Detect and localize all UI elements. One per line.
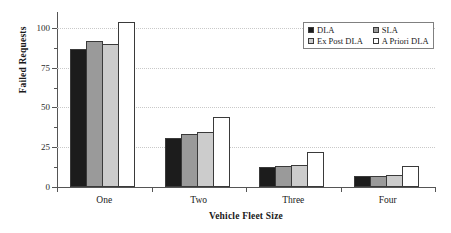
bar [402, 166, 419, 187]
bar [275, 166, 292, 187]
x-tick-label: Four [379, 195, 397, 205]
legend-label: Ex Post DLA [317, 37, 363, 46]
bar [386, 175, 403, 187]
y-axis-title: Failed Requests [18, 0, 28, 130]
y-tick [52, 147, 57, 148]
bar [102, 44, 119, 187]
x-tick-label: One [96, 195, 112, 205]
y-tick-minor [54, 88, 57, 89]
y-tick-label: 75 [41, 63, 50, 73]
x-tick-label: Two [190, 195, 207, 205]
legend-item-sla: SLA [373, 26, 429, 35]
legend-item-a-priori-dla: A Priori DLA [373, 37, 429, 46]
bar [370, 176, 387, 187]
y-tick-label: 50 [41, 102, 50, 112]
bar [291, 165, 308, 187]
chart-legend: DLA SLA Ex Post DLA A Priori DLA [303, 22, 434, 49]
bar [70, 49, 87, 187]
bar-chart: Failed Requests 0255075100 OneTwoThreeFo… [0, 0, 451, 233]
bar [197, 132, 214, 187]
legend-swatch-icon [308, 38, 314, 44]
bar [354, 176, 371, 187]
legend-swatch-icon [373, 27, 379, 33]
y-tick-minor [54, 167, 57, 168]
y-tick-label: 100 [37, 23, 51, 33]
bar [165, 138, 182, 187]
bar-group [70, 12, 138, 187]
x-tick [152, 187, 153, 192]
x-axis-title: Vehicle Fleet Size [57, 211, 435, 221]
bar-group [165, 12, 233, 187]
x-tick [57, 187, 58, 192]
legend-swatch-icon [308, 27, 314, 33]
legend-item-dla: DLA [308, 26, 363, 35]
y-tick [52, 28, 57, 29]
legend-label: A Priori DLA [382, 37, 429, 46]
y-tick [52, 107, 57, 108]
y-tick-label: 25 [41, 142, 50, 152]
y-tick-label: 0 [46, 182, 51, 192]
y-tick-minor [54, 48, 57, 49]
x-tick-label: Three [282, 195, 304, 205]
legend-item-ex-post-dla: Ex Post DLA [308, 37, 363, 46]
y-axis-line [57, 12, 58, 187]
y-tick-minor [54, 127, 57, 128]
legend-label: DLA [317, 26, 334, 35]
bar [259, 167, 276, 187]
bar [118, 22, 135, 187]
bar [213, 117, 230, 187]
x-tick [341, 187, 342, 192]
x-tick [246, 187, 247, 192]
y-tick [52, 68, 57, 69]
legend-swatch-icon [373, 38, 379, 44]
bar [307, 152, 324, 187]
bar [181, 134, 198, 187]
x-tick [435, 187, 436, 192]
bar [86, 41, 103, 187]
legend-label: SLA [382, 26, 398, 35]
